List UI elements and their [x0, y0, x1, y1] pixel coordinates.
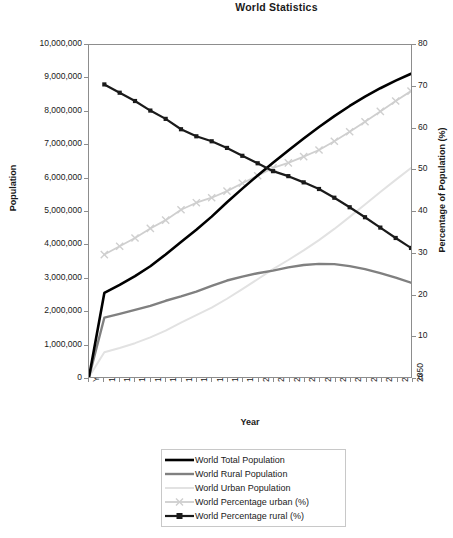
x-axis-tickmark — [397, 378, 398, 382]
series-marker-square — [194, 134, 198, 138]
legend-item[interactable]: World Total Population — [162, 453, 345, 467]
y-axis-right-tick-label: 70 — [418, 80, 427, 90]
chart-title: World Statistics — [0, 1, 453, 13]
y-axis-left-tick-label: 10,000,000 — [6, 38, 82, 48]
chart-legend: World Total PopulationWorld Rural Popula… — [161, 449, 346, 527]
y-axis-left-tick-label: 0 — [6, 372, 82, 382]
legend-item[interactable]: World Rural Population — [162, 467, 345, 481]
y-axis-right-tick-label: 80 — [418, 38, 427, 48]
y-axis-left-tick-label: 9,000,000 — [6, 71, 82, 81]
plot-lines — [89, 45, 411, 377]
y-axis-left-tick-label: 2,000,000 — [6, 305, 82, 315]
legend-item-label: World Rural Population — [195, 468, 287, 480]
series-marker-square — [317, 187, 321, 191]
series-marker-square — [378, 226, 382, 230]
y-axis-right-tick-label: 60 — [418, 122, 427, 132]
x-axis-tickmark — [103, 378, 104, 382]
series-marker-square — [240, 154, 244, 158]
series-marker-square — [102, 82, 106, 86]
x-axis-tickmark — [165, 378, 166, 382]
series-marker-cross — [315, 146, 322, 153]
x-axis-tickmark — [304, 378, 305, 382]
y-axis-right-tickmark — [412, 253, 416, 254]
series-line — [89, 168, 411, 377]
series-marker-cross — [377, 108, 384, 115]
series-marker-cross — [177, 206, 184, 213]
x-axis-tickmark — [412, 378, 413, 382]
y-axis-left-tick-label: 4,000,000 — [6, 238, 82, 248]
y-axis-right-tickmark — [412, 295, 416, 296]
x-axis-tickmark — [350, 378, 351, 382]
legend-item-label: World Urban Population — [195, 482, 290, 494]
legend-item-label: World Percentage urban (%) — [195, 496, 309, 508]
legend-item[interactable]: World Urban Population — [162, 481, 345, 495]
y-axis-left-tick-label: 7,000,000 — [6, 138, 82, 148]
series-marker-cross — [407, 87, 411, 94]
y-axis-right-title: Percentage of Population (%) — [437, 120, 447, 260]
x-axis-tickmark — [181, 378, 182, 382]
legend-swatch-icon — [164, 496, 195, 508]
legend-swatch-icon — [164, 482, 195, 494]
series-marker-square — [179, 127, 183, 131]
series-marker-square — [409, 246, 411, 250]
x-axis-tickmark — [319, 378, 320, 382]
legend-item-label: World Total Population — [195, 454, 285, 466]
y-axis-left-title: Population — [8, 148, 18, 228]
x-axis-tickmark — [289, 378, 290, 382]
x-axis-title: Year — [88, 417, 412, 427]
series-marker-square — [302, 180, 306, 184]
x-axis-tickmark — [242, 378, 243, 382]
series-marker-square — [164, 117, 168, 121]
series-marker-cross — [361, 118, 368, 125]
x-axis-tickmark — [366, 378, 367, 382]
series-marker-square — [148, 108, 152, 112]
series-marker-cross — [392, 97, 399, 104]
series-marker-cross — [223, 188, 230, 195]
series-marker-square — [133, 99, 137, 103]
y-axis-right-tick-label: 10 — [418, 330, 427, 340]
x-axis-tickmark — [258, 378, 259, 382]
series-marker-square — [256, 161, 260, 165]
series-marker-square — [332, 196, 336, 200]
series-marker-cross — [300, 153, 307, 160]
series-marker-square — [210, 139, 214, 143]
x-axis-tickmark — [381, 378, 382, 382]
series-line — [89, 264, 411, 377]
legend-item[interactable]: World Percentage urban (%) — [162, 495, 345, 509]
y-axis-right-tick-label: 40 — [418, 205, 427, 215]
y-axis-right-tick-label: 30 — [418, 247, 427, 257]
series-marker-square — [118, 91, 122, 95]
legend-swatch-icon — [164, 468, 195, 480]
x-axis-tickmark — [227, 378, 228, 382]
series-marker-square — [286, 174, 290, 178]
series-marker-cross — [147, 225, 154, 232]
series-marker-square — [394, 236, 398, 240]
y-axis-right-tickmark — [412, 86, 416, 87]
x-axis-tickmark — [119, 378, 120, 382]
legend-swatch-icon — [164, 454, 195, 466]
y-axis-left-tick-label: 1,000,000 — [6, 339, 82, 349]
y-axis-right-tick-label: 50 — [418, 163, 427, 173]
series-marker-cross — [131, 234, 138, 241]
y-axis-right-tickmark — [412, 336, 416, 337]
x-axis-tickmark — [196, 378, 197, 382]
y-axis-right-tick-label: 20 — [418, 289, 427, 299]
plot-area — [88, 44, 412, 378]
series-line — [104, 91, 411, 255]
series-marker-cross — [162, 217, 169, 224]
y-axis-right-tickmark — [412, 211, 416, 212]
x-axis-tickmark — [88, 378, 89, 382]
y-axis-left-tick-label: 8,000,000 — [6, 105, 82, 115]
series-marker-cross — [346, 128, 353, 135]
y-axis-right-tickmark — [412, 44, 416, 45]
series-marker-square — [348, 205, 352, 209]
series-marker-cross — [101, 251, 108, 258]
series-marker-cross — [331, 138, 338, 145]
legend-swatch-icon — [164, 510, 195, 522]
y-axis-left-tick-label: 3,000,000 — [6, 272, 82, 282]
y-axis-right-tickmark — [412, 128, 416, 129]
x-axis-tick-label: 2050 — [415, 363, 425, 382]
legend-item[interactable]: World Percentage rural (%) — [162, 509, 345, 523]
legend-item-label: World Percentage rural (%) — [195, 510, 304, 522]
x-axis-tickmark — [134, 378, 135, 382]
